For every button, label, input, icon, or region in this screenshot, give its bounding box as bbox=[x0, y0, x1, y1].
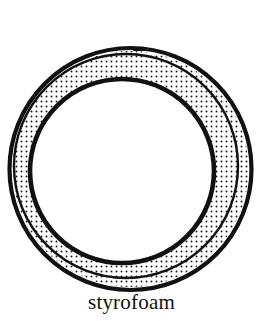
ring-diagram-svg bbox=[0, 0, 263, 321]
caption-container: styrofoam bbox=[0, 292, 263, 313]
inner-boundary-circle bbox=[30, 79, 214, 263]
top-seam-break-mark bbox=[133, 48, 145, 51]
caption-label-styrofoam: styrofoam bbox=[88, 290, 175, 314]
styrofoam-ring-figure: styrofoam bbox=[0, 0, 263, 321]
